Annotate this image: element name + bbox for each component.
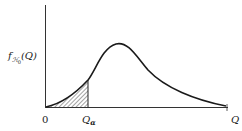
x-axis-label: Q <box>231 114 239 125</box>
critical-value-label: Qα <box>82 114 96 127</box>
rejection-region-hatch <box>46 80 88 107</box>
y-axis-label: fℋ0(Q) <box>7 50 37 65</box>
origin-label: 0 <box>42 114 48 125</box>
density-diagram: fℋ0(Q) 0 Qα Q <box>0 0 242 131</box>
